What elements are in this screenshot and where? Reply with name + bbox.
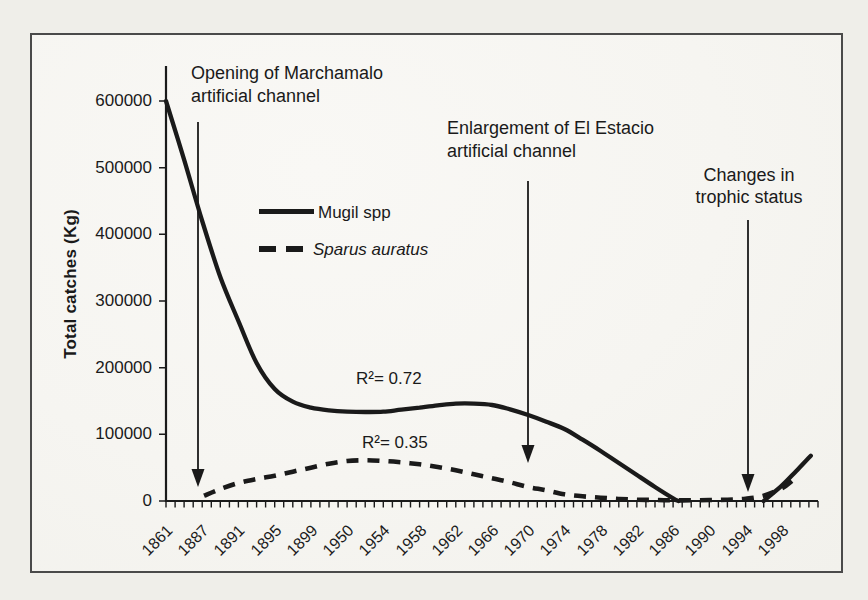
legend-label-sparus: Sparus auratus [313, 240, 428, 260]
legend-label-mugil: Mugil spp [318, 203, 391, 223]
annotation-trophic-status-line2: trophic status [695, 187, 802, 207]
r-squared-label-mugil: R²= 0.72 [356, 369, 422, 389]
annotation-el-estacio-line1: Enlargement of El Estacio [447, 118, 654, 138]
legend-dash-sample-1 [259, 246, 276, 252]
annotation-arrowhead-1 [192, 469, 205, 487]
y-tick-label-0: 0 [56, 491, 152, 511]
annotation-trophic-status: Changes in trophic status [688, 164, 810, 208]
annotation-trophic-status-line1: Changes in [703, 165, 794, 185]
scanned-figure-page: Total catches (Kg) 600000500000400000300… [0, 0, 868, 600]
annotation-el-estacio: Enlargement of El Estacio artificial cha… [447, 117, 654, 163]
annotation-arrowhead-2 [522, 445, 535, 463]
annotation-arrowhead-3 [742, 474, 755, 492]
legend-line-sample-solid [259, 209, 314, 214]
y-tick-label-400000: 400000 [56, 224, 152, 244]
annotation-el-estacio-line2: artificial channel [447, 141, 576, 161]
y-tick-label-300000: 300000 [56, 291, 152, 311]
y-tick-label-500000: 500000 [56, 158, 152, 178]
legend-dash-sample-2 [286, 246, 303, 252]
sparus-curve [204, 460, 793, 500]
annotation-marchamalo: Opening of Marchamalo artificial channel [191, 62, 383, 108]
y-tick-label-100000: 100000 [56, 424, 152, 444]
annotation-marchamalo-line1: Opening of Marchamalo [191, 63, 383, 83]
annotation-marchamalo-line2: artificial channel [191, 86, 320, 106]
y-tick-label-600000: 600000 [56, 91, 152, 111]
r-squared-label-sparus: R²= 0.35 [362, 433, 428, 453]
y-tick-label-200000: 200000 [56, 358, 152, 378]
